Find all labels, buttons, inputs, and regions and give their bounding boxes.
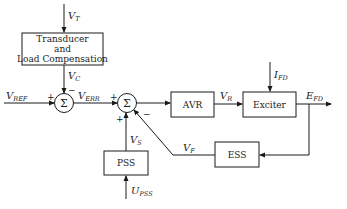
sum2-left-sign: + (110, 92, 118, 102)
vf-label: VF (183, 142, 195, 155)
vref-label: VREF (6, 90, 28, 103)
efd-label: EFD (305, 90, 324, 103)
vc-label: VC (68, 70, 80, 83)
block-diagram: VT Transducer and Load Compensation VC −… (0, 0, 347, 209)
ifd-label: IFD (273, 69, 288, 82)
sum2-sigma: Σ (123, 97, 131, 110)
exciter-label: Exciter (253, 100, 287, 110)
sum1-sigma: Σ (60, 97, 68, 110)
transducer-label-line1: Transducer (36, 34, 89, 44)
pss-label: PSS (117, 158, 135, 168)
sum1-left-sign: + (47, 92, 55, 102)
avr-label: AVR (182, 100, 203, 110)
transducer-label-line2: and (54, 44, 71, 54)
verr-label: VERR (78, 90, 100, 103)
transducer-label-line3: Load Compensation (17, 54, 108, 64)
ess-label: ESS (228, 150, 247, 160)
sum1-top-sign: − (68, 85, 76, 95)
vr-label: VR (220, 90, 232, 103)
sum2-lower-right-sign: − (143, 109, 151, 119)
vs-label: VS (130, 134, 142, 147)
vt-label: VT (68, 10, 80, 23)
sum2-bottom-sign: + (116, 114, 124, 124)
upss-label: UPSS (131, 185, 153, 198)
